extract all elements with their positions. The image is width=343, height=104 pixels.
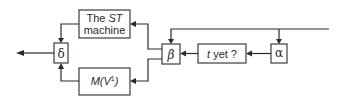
node-t-yet: t yet ? <box>198 44 246 63</box>
mv1-label: M(V1) <box>91 75 119 87</box>
beta-label: β <box>167 48 175 62</box>
st-machine-label-line1: The ST <box>86 12 123 24</box>
node-delta: δ <box>54 43 68 63</box>
beta-to-st-line <box>135 24 162 49</box>
arrow-into-beta-right <box>180 51 186 57</box>
arrow-output <box>16 50 24 56</box>
node-alpha: α <box>271 44 287 63</box>
arrow-into-st-machine <box>130 21 136 27</box>
arrow-into-delta-top <box>58 38 64 43</box>
arrow-into-beta-top <box>168 39 174 44</box>
arrow-into-delta-bottom <box>58 63 64 69</box>
node-st-machine: The ST machine <box>79 10 130 38</box>
beta-to-mv1-line <box>135 59 162 81</box>
node-beta: β <box>162 44 180 64</box>
node-m-v1: M(V1) <box>79 68 130 95</box>
input-bus-line <box>171 29 329 40</box>
arrow-into-alpha <box>276 39 282 44</box>
t-yet-label: t yet ? <box>207 48 237 60</box>
arrow-into-tyet <box>246 51 252 57</box>
block-diagram: δ The ST machine M(V1) β t yet ? α <box>0 0 343 104</box>
st-machine-label-line2: machine <box>84 24 126 36</box>
mv1-to-delta-line <box>61 68 79 81</box>
st-to-delta-line <box>61 24 79 39</box>
alpha-label: α <box>275 46 283 60</box>
arrow-into-mv1 <box>130 78 136 84</box>
delta-label: δ <box>57 47 64 61</box>
